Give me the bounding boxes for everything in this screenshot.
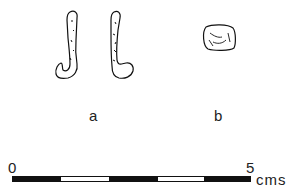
object-label-a: a [89, 108, 97, 123]
scale-end-label: 5 [246, 160, 254, 175]
block-drawing [204, 25, 236, 51]
object-label-b: b [214, 108, 222, 123]
scale-segment-3 [109, 176, 158, 182]
scale-segment-2 [61, 176, 109, 182]
scale-start-label: 0 [8, 160, 16, 175]
hook-right-drawing [111, 11, 133, 78]
scale-segment-1 [12, 176, 61, 182]
hook-left-drawing [56, 11, 77, 78]
scale-unit-label: cms [256, 172, 287, 186]
scale-segment-5 [204, 176, 251, 182]
scale-segment-4 [158, 176, 204, 182]
